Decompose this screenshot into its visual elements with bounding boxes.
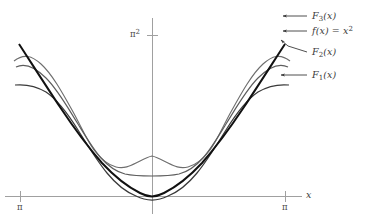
- legend-f-rhs-exp: 2: [348, 25, 353, 33]
- legend-F2-arg: (x): [323, 46, 336, 57]
- legend-label-F3: F3(x): [312, 11, 336, 23]
- y-tick-label-pi-squared: π2: [130, 29, 140, 39]
- x-axis-label: x: [306, 190, 311, 200]
- legend-F1-arg: (x): [323, 69, 336, 80]
- legend-label-f: f(x) = x2: [312, 26, 353, 36]
- x-tick-label-right: π: [282, 203, 288, 212]
- y-tick-exponent: 2: [136, 28, 140, 36]
- legend-f-arg: (x): [316, 25, 329, 36]
- legend-F3-base: F: [312, 10, 319, 21]
- legend-F3-arg: (x): [323, 10, 336, 21]
- legend-label-F1: F1(x): [312, 70, 336, 82]
- legend-label-F2: F2(x): [312, 47, 336, 59]
- x-tick-label-left: π: [17, 203, 23, 212]
- axes-group: [5, 18, 302, 214]
- leader-line-F2: [281, 40, 307, 52]
- fourier-approximation-figure: F3(x) f(x) = x2 F2(x) F1(x) x π π π2: [0, 0, 369, 222]
- legend-F2-base: F: [312, 46, 319, 57]
- legend-F1-base: F: [312, 69, 319, 80]
- legend-f-eq: =: [332, 25, 340, 36]
